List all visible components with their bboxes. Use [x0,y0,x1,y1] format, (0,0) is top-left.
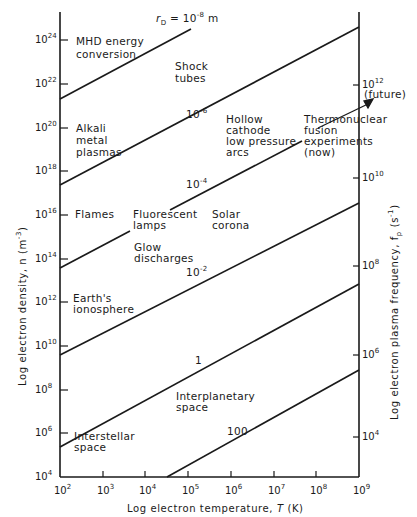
svg-text:108: 108 [35,382,52,395]
svg-text:1010: 1010 [35,338,57,351]
x-axis-title: Log electron temperature, T (K) [127,503,304,514]
svg-text:1020: 1020 [35,120,57,133]
svg-text:103: 103 [97,483,114,496]
annotation-flames: Flames [75,208,114,220]
arrow-head-icon [364,99,373,108]
svg-text:109: 109 [353,483,370,496]
y-axis-title: Log electron density, n (m-3) [15,226,28,386]
plasma-parameter-chart: rD = 10-8 m 10-6 10-4 10-2 1 100 MHD ene… [0,0,417,517]
y-tick-labels-left: 104 106 108 1010 1012 1014 1016 1018 102… [35,32,57,482]
y-tick-labels-right: 104 106 108 1010 1012 [362,77,384,442]
annotation-glow: Glowdischarges [134,241,194,264]
svg-text:1010: 1010 [362,170,384,183]
annotation-interstellar: Interstellarspace [74,430,135,453]
svg-text:108: 108 [362,258,379,271]
label-rd-1e-6: 10-6 [186,107,208,120]
label-rd-100: 100 [227,425,248,437]
svg-text:104: 104 [362,429,380,442]
annotation-solar-corona: Solarcorona [212,208,250,231]
svg-text:104: 104 [35,469,53,482]
annotation-mhd: MHD energyconversion [76,35,144,60]
x-tick-labels: 102 103 104 105 106 107 108 109 [54,483,370,496]
svg-text:1016: 1016 [35,207,57,220]
svg-text:1012: 1012 [35,294,57,307]
annotation-alkali: Alkalimetalplasmas [76,122,122,158]
annotation-ionosphere: Earth'sionosphere [73,292,134,315]
label-rd-1: 1 [195,354,202,366]
svg-text:106: 106 [35,425,53,438]
svg-text:102: 102 [54,483,71,496]
svg-text:106: 106 [362,347,380,360]
svg-text:105: 105 [182,483,199,496]
svg-text:1022: 1022 [35,76,57,89]
annotation-shock-tubes: Shocktubes [175,60,209,84]
svg-text:1014: 1014 [35,251,57,264]
svg-text:107: 107 [268,483,285,496]
svg-text:104: 104 [139,483,157,496]
line-rd-1e-2 [60,203,359,355]
line-rd-100 [167,370,359,477]
annotation-fluorescent: Fluorescentlamps [133,208,197,231]
svg-text:108: 108 [310,483,327,496]
debye-lines [60,27,359,477]
label-rd-1e-8: rD = 10-8 m [156,11,218,27]
y2-axis-title: Log electron plasma frequency, fp (s-1) [387,204,403,420]
label-rd-1e-2: 10-2 [186,265,208,278]
svg-text:1024: 1024 [35,32,57,45]
annotation-thermonuclear: Thermonuclearfusionexperiments(now) [303,113,388,158]
line-rd-1e-4-a [60,231,130,268]
svg-text:1018: 1018 [35,163,57,176]
annotation-hollow-cathode: Hollowcathodelow pressurearcs [226,113,296,158]
svg-text:106: 106 [225,483,243,496]
annotation-interplanetary: Interplanetaryspace [176,390,255,413]
label-rd-1e-4: 10-4 [186,177,208,190]
x-ticks [103,471,316,477]
